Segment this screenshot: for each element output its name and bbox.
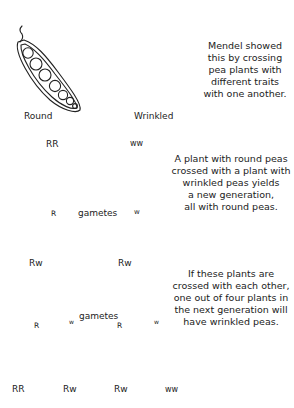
gamete-symbol-w: w [154,318,159,325]
caption-line: all with round peas. [168,201,294,213]
f2-genotype-label: Rw [114,384,128,394]
caption-line: If these plants are [168,268,294,280]
caption-first-cross: A plant with round peas crossed with a p… [168,153,294,213]
caption-line: crossed with a plant with [168,165,294,177]
f1-genotype-right: Rw [118,258,132,268]
f2-genotype-label: Rw [63,384,77,394]
gamete-symbol-R: R [51,209,56,218]
caption-line: have wrinkled peas. [168,316,294,328]
caption-line: crossed with each other, [168,280,294,292]
caption-line: Mendel showed [196,40,294,52]
caption-line: wrinkled peas yields [168,177,294,189]
caption-line: one out of four plants in [168,292,294,304]
caption-line: A plant with round peas [168,153,294,165]
caption-intro: Mendel showed this by crossing pea plant… [196,40,294,100]
gametes-label: gametes [78,208,117,218]
caption-line: the next generation will [168,304,294,316]
caption-second-cross: If these plants are crossed with each ot… [168,268,294,328]
pod-label-wrinkled: Wrinkled [134,111,173,121]
caption-line: a new generation, [168,189,294,201]
parent-genotype-RR: RR [46,139,59,149]
caption-line: different traits [196,76,294,88]
caption-line: this by crossing [196,52,294,64]
parent-genotype-ww: ww [130,139,143,148]
pod-label-round: Round [24,111,52,121]
caption-line: with one another. [196,88,294,100]
f1-genotype-left: Rw [29,258,43,268]
gametes-label: gametes [79,311,118,321]
caption-line: pea plants with [196,64,294,76]
round-pea-pod-icon [17,26,80,112]
gamete-symbol-R: R [117,321,122,330]
f2-genotype-label: ww [165,385,178,394]
gamete-symbol-w: w [134,208,140,216]
gamete-symbol-R: R [34,321,39,330]
f2-genotype-label: RR [12,384,25,394]
gamete-symbol-w: w [69,318,74,325]
